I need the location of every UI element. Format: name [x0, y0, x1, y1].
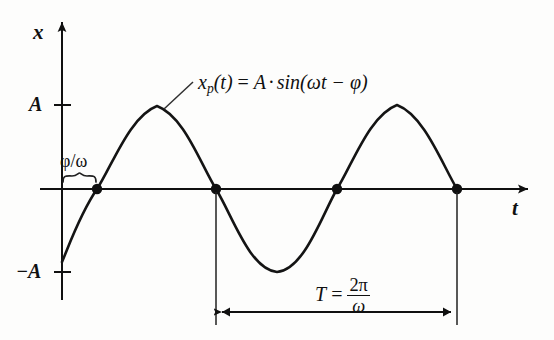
period-arrow-right-head: [443, 308, 451, 317]
equation-function: sin: [277, 71, 300, 93]
equation-lhs-subscript: p: [207, 81, 214, 96]
equation-lhs-symbol: x: [198, 71, 207, 93]
phase-brace: [63, 173, 96, 182]
period-arrow-left-head: [222, 308, 230, 317]
y-tick-negative-label: −A: [16, 261, 41, 281]
y-tick-positive-label: A: [29, 94, 42, 114]
period-fraction: 2π ω: [347, 276, 369, 317]
equation-lhs-arg: (t): [214, 71, 233, 93]
zero-crossing-dot: [92, 184, 102, 194]
equation-dot: ·: [266, 71, 277, 93]
period-denominator: ω: [347, 296, 369, 316]
period-label: T = 2π ω: [315, 276, 370, 317]
period-symbol: T: [315, 283, 326, 305]
equation-argument: (ωt − φ): [300, 71, 368, 93]
oscillation-diagram: x t A −A φ/ω xp(t) = A·sin(ωt − φ) T = 2…: [0, 0, 554, 340]
y-axis-label: x: [33, 22, 44, 43]
x-axis-label: t: [512, 198, 518, 219]
phase-shift-label: φ/ω: [60, 152, 87, 170]
period-equals: =: [331, 283, 342, 305]
zero-crossing-dot: [332, 184, 342, 194]
equation-amplitude: A: [254, 71, 266, 93]
curve-equation-label: xp(t) = A·sin(ωt − φ): [198, 72, 368, 95]
equation-leader-line: [164, 82, 193, 109]
period-numerator: 2π: [347, 276, 369, 296]
equation-equals: =: [238, 71, 249, 93]
